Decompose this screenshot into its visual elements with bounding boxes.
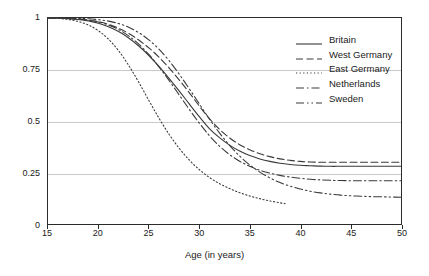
x-tick-label: 30 — [184, 229, 214, 238]
series-line-east-germany — [48, 18, 285, 204]
x-tick-label: 40 — [286, 229, 316, 238]
legend-item-west-germany[interactable]: West Germany — [296, 48, 416, 63]
legend-item-label: Sweden — [329, 94, 363, 104]
legend-item-label: East Germany — [329, 64, 390, 74]
legend-line-sample-icon — [296, 94, 322, 104]
y-tick-label: 0.25 — [0, 169, 40, 178]
y-tick-label: 1 — [0, 13, 40, 22]
x-tick-label: 35 — [235, 229, 265, 238]
legend-item-britain[interactable]: Britain — [296, 33, 416, 48]
x-tick-label: 20 — [83, 229, 113, 238]
x-tick-label: 25 — [133, 229, 163, 238]
legend-item-label: Britain — [329, 35, 356, 45]
y-tick-label: 0.75 — [0, 65, 40, 74]
legend-item-label: Netherlands — [329, 79, 380, 89]
chart-legend: BritainWest GermanyEast GermanyNetherlan… — [296, 33, 416, 106]
x-axis-title: Age (in years) — [0, 249, 429, 260]
legend-item-sweden[interactable]: Sweden — [296, 91, 416, 106]
x-tick-label: 15 — [32, 229, 62, 238]
legend-line-sample-icon — [296, 79, 322, 89]
legend-item-label: West Germany — [329, 50, 392, 60]
legend-item-east-germany[interactable]: East Germany — [296, 62, 416, 77]
legend-line-sample-icon — [296, 50, 322, 60]
y-tick-label: 0.5 — [0, 117, 40, 126]
x-tick-label: 50 — [387, 229, 417, 238]
legend-item-netherlands[interactable]: Netherlands — [296, 77, 416, 92]
x-tick-label: 45 — [336, 229, 366, 238]
chart-container: 00.250.50.751 1520253035404550 Age (in y… — [0, 0, 429, 276]
legend-line-sample-icon — [296, 35, 322, 45]
legend-line-sample-icon — [296, 64, 322, 74]
